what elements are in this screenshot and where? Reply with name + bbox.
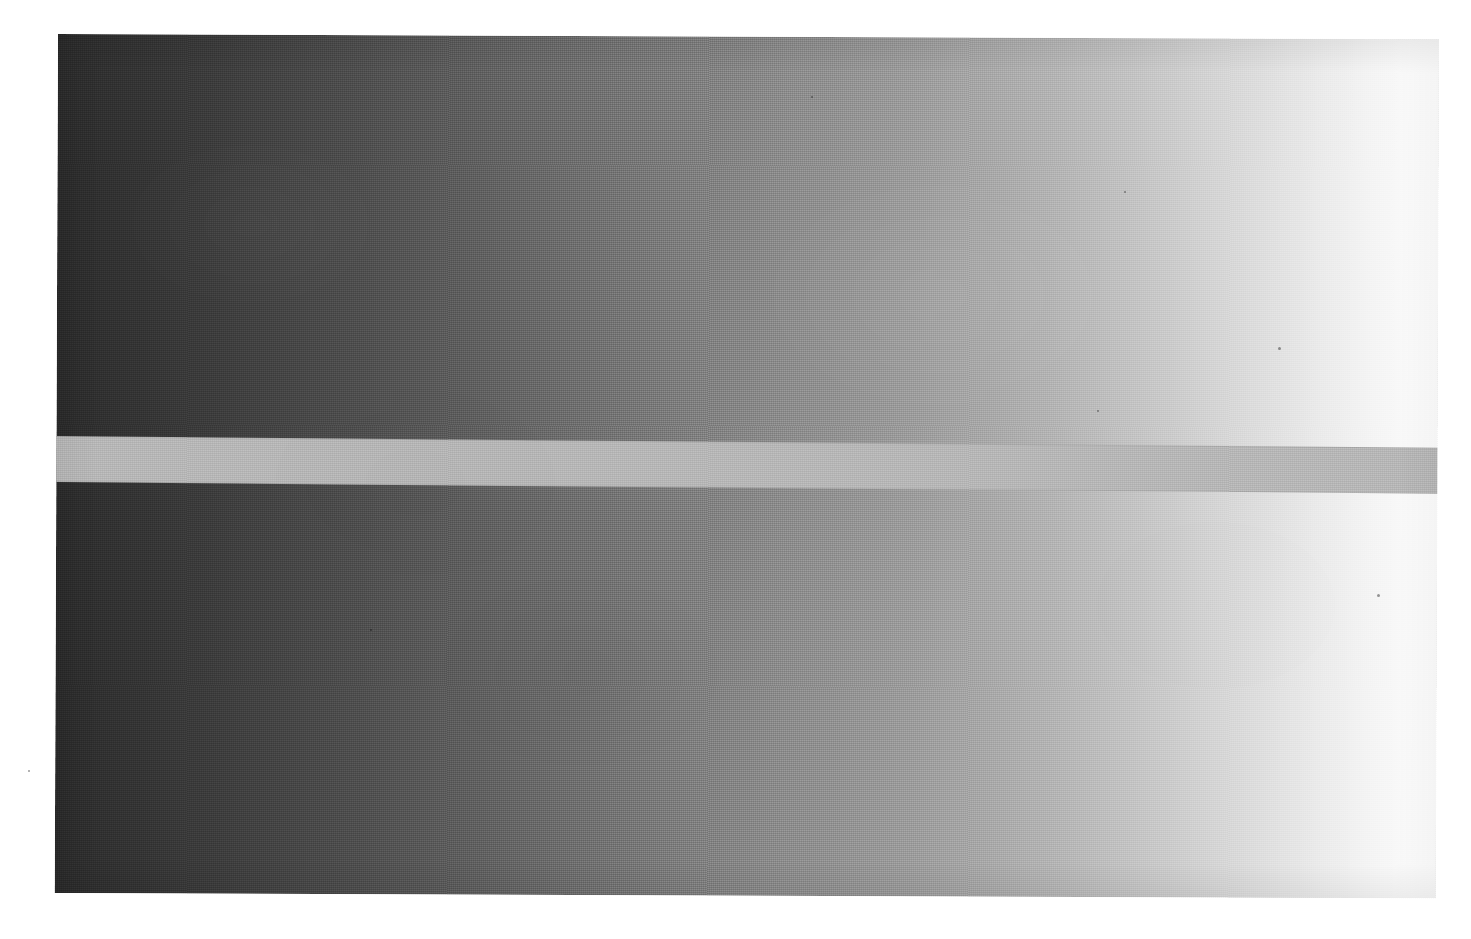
page-canvas	[0, 0, 1471, 939]
scanned-print-region	[55, 34, 1439, 898]
dust-speck	[28, 770, 30, 772]
